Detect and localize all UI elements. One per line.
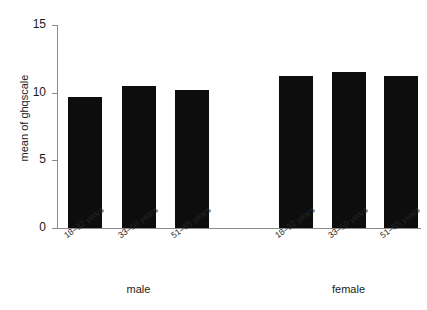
y-axis-tick-label: 5: [39, 152, 46, 166]
bar: [332, 72, 366, 228]
x-axis-line: [57, 228, 421, 229]
x-axis-group-label-female: female: [299, 283, 399, 296]
bar-chart: mean of ghqscale 051015 18–32 years33–50…: [0, 0, 427, 310]
y-axis-tick-label: 15: [33, 17, 46, 31]
plot-area: [57, 25, 421, 228]
y-axis-tick-label: 0: [39, 220, 46, 234]
y-axis-tick-label: 10: [33, 85, 46, 99]
y-axis-title: mean of ghqscale: [18, 28, 30, 208]
x-axis-group-label-male: male: [89, 283, 189, 296]
